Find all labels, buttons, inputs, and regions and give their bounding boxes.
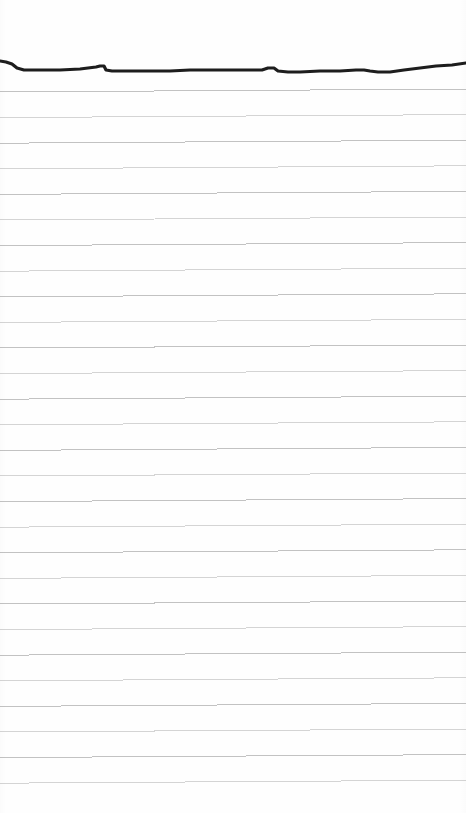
writing-area[interactable] <box>0 80 466 813</box>
top-margin-area <box>0 0 466 60</box>
paper-page <box>0 0 466 813</box>
horizontal-ink-rule-icon <box>0 61 466 72</box>
